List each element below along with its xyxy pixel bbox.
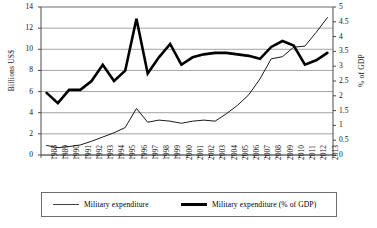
y-axis-left-tick: 14 bbox=[17, 2, 33, 11]
x-axis-tick: 1997 bbox=[151, 145, 160, 160]
legend-item-military-expenditure: Military expenditure bbox=[53, 193, 149, 216]
y-axis-right-tick: 5 bbox=[339, 2, 359, 11]
x-axis-tick: 2010 bbox=[297, 145, 306, 160]
x-axis-tick: 2002 bbox=[207, 145, 216, 160]
legend-line-swatch-thick bbox=[181, 203, 207, 206]
x-axis-tick: 2003 bbox=[218, 145, 227, 160]
x-axis-tick: 2000 bbox=[185, 145, 194, 160]
x-axis-tick: 1992 bbox=[95, 145, 104, 160]
x-axis-tick: 2007 bbox=[263, 145, 272, 160]
y-axis-right-tick: 2 bbox=[339, 91, 359, 100]
y-axis-right-tick: 3 bbox=[339, 61, 359, 70]
x-axis-tick: 1991 bbox=[84, 145, 93, 160]
y-axis-left-tick: 12 bbox=[17, 23, 33, 32]
x-axis-tick: 1996 bbox=[140, 145, 149, 160]
x-axis-tick: 2004 bbox=[230, 145, 239, 160]
y-axis-tick-marks bbox=[38, 7, 336, 155]
gridlines bbox=[41, 7, 333, 155]
plot-frame bbox=[41, 7, 333, 155]
y-axis-right-tick: 0.5 bbox=[339, 135, 359, 144]
y-axis-right-tick: 1 bbox=[339, 120, 359, 129]
x-axis-tick: 1998 bbox=[162, 145, 171, 160]
x-axis-tick: 2009 bbox=[286, 145, 295, 160]
chart-figure: Billions US$ % of GDP 02468101214 00.511… bbox=[0, 0, 377, 228]
y-axis-left-tick: 10 bbox=[17, 44, 33, 53]
x-axis-tick: 1988 bbox=[50, 145, 59, 160]
y-axis-left-tick: 4 bbox=[17, 108, 33, 117]
y-axis-right-tick: 4.5 bbox=[339, 17, 359, 26]
x-axis-tick: 1999 bbox=[173, 145, 182, 160]
x-axis-tick: 2001 bbox=[196, 145, 205, 160]
y-axis-right-tick: 4 bbox=[339, 32, 359, 41]
x-axis-tick: 1993 bbox=[106, 145, 115, 160]
x-axis-tick: 2006 bbox=[252, 145, 261, 160]
x-axis-tick: 1994 bbox=[117, 145, 126, 160]
y-axis-left-tick: 8 bbox=[17, 65, 33, 74]
y-axis-right-tick: 3.5 bbox=[339, 46, 359, 55]
legend-label-military-expenditure-gdp: Military expenditure (% of GDP) bbox=[212, 200, 316, 209]
chart-legend: Military expenditure Military expenditur… bbox=[41, 192, 337, 217]
x-axis-tick: 1995 bbox=[128, 145, 137, 160]
x-axis-tick: 2012 bbox=[319, 145, 328, 160]
y-axis-left-tick: 0 bbox=[17, 150, 33, 159]
data-series-layer bbox=[47, 18, 328, 148]
legend-line-swatch-thin bbox=[53, 204, 79, 205]
legend-item-military-expenditure-gdp: Military expenditure (% of GDP) bbox=[181, 193, 316, 216]
x-axis-tick: 1989 bbox=[61, 145, 70, 160]
y-axis-right-tick: 2.5 bbox=[339, 76, 359, 85]
x-axis-tick: 2008 bbox=[274, 145, 283, 160]
x-axis-tick: 2013 bbox=[331, 145, 340, 160]
x-axis-tick: 2005 bbox=[241, 145, 250, 160]
x-axis-tick: 1990 bbox=[72, 145, 81, 160]
y-axis-right-tick: 0 bbox=[339, 150, 359, 159]
y-axis-right-tick: 1.5 bbox=[339, 106, 359, 115]
x-axis-tick: 2011 bbox=[308, 145, 317, 160]
y-axis-left-tick: 2 bbox=[17, 129, 33, 138]
legend-label-military-expenditure: Military expenditure bbox=[84, 200, 149, 209]
y-axis-left-tick: 6 bbox=[17, 87, 33, 96]
